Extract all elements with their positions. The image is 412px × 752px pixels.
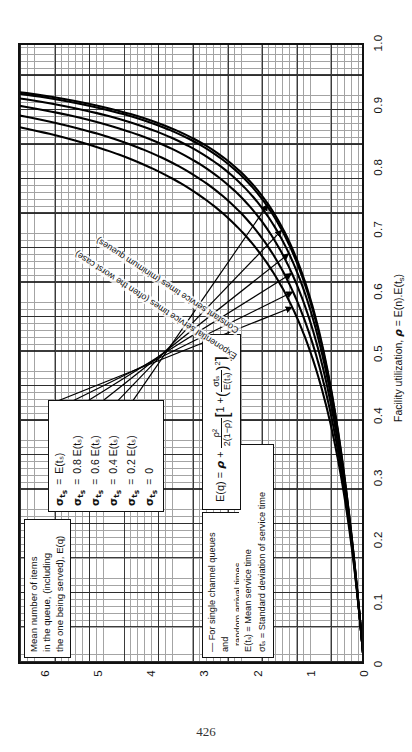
y-tick-label: 2 <box>252 670 264 686</box>
y-caption-line-1: Mean number of items <box>28 525 41 652</box>
formula-plus: + <box>214 448 226 461</box>
page-number: 426 <box>0 724 412 740</box>
x-title-sub: s <box>397 277 406 281</box>
x-tick-label: 0.1 <box>372 593 384 610</box>
legend-item: σts = 0.4 E(tₛ) <box>106 406 124 506</box>
curve-0.64 <box>20 113 364 662</box>
legend-sigma-symbol: σts <box>52 490 70 506</box>
x-title-rest: = E(n).E(t <box>392 281 404 329</box>
formula-paren-open: ( <box>213 392 230 397</box>
y-caption-line-3: the one being served), E(q) <box>54 525 67 652</box>
y-tick-label: 6 <box>39 670 51 686</box>
x-tick-label: 0.9 <box>372 97 384 114</box>
x-title-close: ) <box>392 274 404 278</box>
x-tick-label: 0.5 <box>372 345 384 362</box>
legend-item-value: E(tₛ) <box>52 453 70 474</box>
plot-area: Mean number of items in the queue, (incl… <box>18 43 364 664</box>
x-axis-title: Facility utilization, ρ = E(n).E(ts) <box>392 274 406 422</box>
formula-exponent: 2 <box>213 361 222 365</box>
formula-frac-denominator: 2(1−ρ) <box>222 418 232 448</box>
formula-inner-numerator: σtₛ <box>211 370 222 392</box>
y-tick-label: 1 <box>305 670 317 686</box>
definitions-box: E(tₛ) = Mean service time σtₛ = Standard… <box>239 444 274 658</box>
y-caption-line-2: in the queue, (including <box>41 525 54 652</box>
legend-item-value: 0.2 E(tₛ) <box>124 435 142 473</box>
formula-bracket-open: [ <box>211 413 232 418</box>
legend-item: σts = 0.8 E(tₛ) <box>70 406 88 506</box>
x-tick-label: 0.2 <box>372 531 384 548</box>
x-tick-label: 1.0 <box>372 35 384 52</box>
legend-item-value: 0.4 E(tₛ) <box>106 435 124 473</box>
legend-equals: = <box>52 478 70 486</box>
legend-equals: = <box>106 478 124 486</box>
x-tick-label: 0 <box>372 661 384 668</box>
x-tick-label: 0.7 <box>372 221 384 238</box>
formula-inner-denominator: E(tₛ) <box>222 370 232 392</box>
legend-sigma-symbol: σts <box>142 490 160 506</box>
curve-family <box>20 45 364 662</box>
formula-inner-plus: + <box>214 397 226 403</box>
legend-item-value: 0 <box>142 468 160 474</box>
legend: σts = E(tₛ) σts = 0.8 E(tₛ) σts = 0.6 E(… <box>48 400 164 512</box>
legend-item: σts = E(tₛ) <box>52 406 70 506</box>
y-tick-label: 3 <box>198 670 210 686</box>
curve-1 <box>20 124 364 662</box>
definition-std-dev-service-time: σtₛ = Standard deviation of service time <box>256 450 270 652</box>
curve-0.16 <box>20 96 364 662</box>
legend-item-value: 0.6 E(tₛ) <box>88 435 106 473</box>
y-tick-label: 5 <box>92 670 104 686</box>
formula-fraction: ρ² 2(1−ρ) <box>211 418 232 448</box>
x-title-prefix: Facility utilization, <box>392 337 404 422</box>
legend-equals: = <box>142 478 160 486</box>
x-tick-label: 0.3 <box>372 469 384 486</box>
curve-0 <box>20 91 364 662</box>
y-tick-label: 4 <box>145 670 157 686</box>
legend-sigma-symbol: σts <box>106 490 124 506</box>
formula-rho: ρ <box>214 461 227 469</box>
legend-equals: = <box>70 478 88 486</box>
x-tick-label: 0.8 <box>372 159 384 176</box>
formula-paren-close: ) <box>213 365 230 370</box>
legend-item: σts = 0.6 E(tₛ) <box>88 406 106 506</box>
formula-frac-numerator: ρ² <box>211 418 222 448</box>
curve-0.36 <box>20 103 364 662</box>
definition-mean-service-time: E(tₛ) = Mean service time <box>242 450 256 652</box>
x-title-rho: ρ <box>392 329 404 337</box>
legend-equals: = <box>124 478 142 486</box>
y-tick-label: 0 <box>358 670 370 686</box>
curve-0.04 <box>20 92 364 662</box>
x-tick-label: 0.6 <box>372 283 384 300</box>
legend-sigma-symbol: σts <box>70 490 88 506</box>
legend-sigma-symbol: σts <box>88 490 106 506</box>
legend-item-value: 0.8 E(tₛ) <box>70 435 88 473</box>
rotated-figure-canvas: Mean number of items in the queue, (incl… <box>0 0 412 752</box>
x-tick-label: 0.4 <box>372 407 384 424</box>
formula-inner-fraction: σtₛ E(tₛ) <box>211 370 232 392</box>
y-axis-caption: Mean number of items in the queue, (incl… <box>24 519 71 658</box>
formula-lhs: E(q) = <box>214 469 226 502</box>
legend-item: σts = 0 <box>142 406 160 506</box>
formula-box: E(q) = ρ + ρ² 2(1−ρ) [1 +( σtₛ E(tₛ) )2] <box>202 334 241 510</box>
formula-one: 1 <box>214 406 226 412</box>
notes-line-1: — For single channel queues and <box>206 518 232 652</box>
legend-item: σts = 0.2 E(tₛ) <box>124 406 142 506</box>
legend-sigma-symbol: σts <box>124 490 142 506</box>
legend-equals: = <box>88 478 106 486</box>
